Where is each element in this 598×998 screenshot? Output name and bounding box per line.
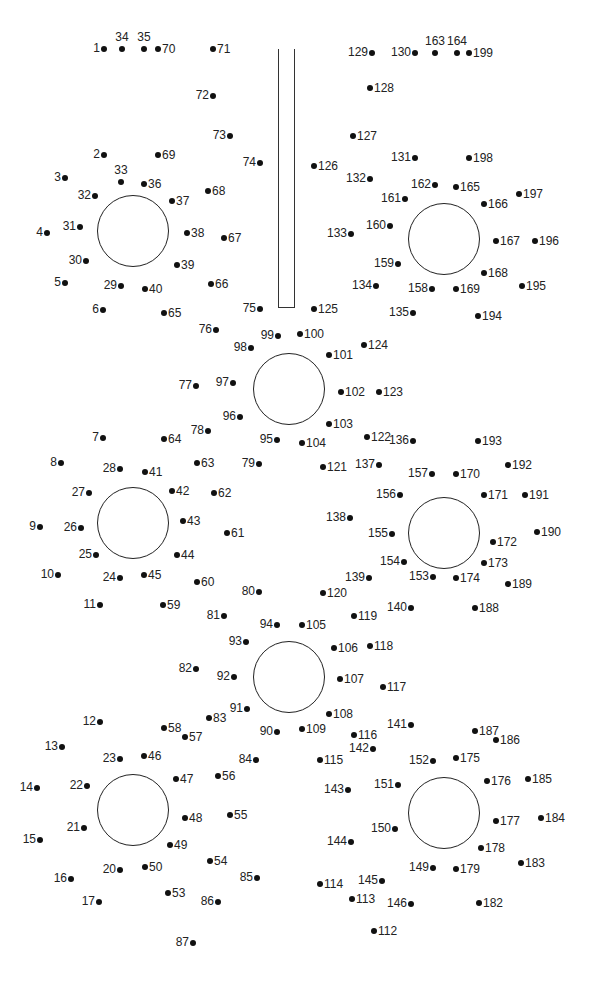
dot-155[interactable] (389, 531, 395, 537)
dot-174[interactable] (453, 575, 459, 581)
dot-137[interactable] (376, 462, 382, 468)
dot-53[interactable] (165, 890, 171, 896)
dot-2[interactable] (101, 152, 107, 158)
dot-177[interactable] (493, 818, 499, 824)
dot-171[interactable] (481, 492, 487, 498)
dot-69[interactable] (155, 152, 161, 158)
dot-43[interactable] (180, 518, 186, 524)
dot-187[interactable] (472, 728, 478, 734)
dot-131[interactable] (412, 155, 418, 161)
dot-127[interactable] (350, 133, 356, 139)
dot-35[interactable] (141, 46, 147, 52)
dot-97[interactable] (230, 380, 236, 386)
dot-49[interactable] (167, 842, 173, 848)
dot-193[interactable] (475, 438, 481, 444)
dot-39[interactable] (174, 262, 180, 268)
dot-191[interactable] (522, 492, 528, 498)
dot-100[interactable] (297, 331, 303, 337)
dot-1[interactable] (101, 46, 107, 52)
dot-189[interactable] (505, 581, 511, 587)
dot-151[interactable] (395, 782, 401, 788)
dot-23[interactable] (117, 756, 123, 762)
dot-93[interactable] (243, 639, 249, 645)
dot-79[interactable] (256, 461, 262, 467)
dot-98[interactable] (248, 345, 254, 351)
dot-135[interactable] (410, 310, 416, 316)
dot-105[interactable] (299, 622, 305, 628)
dot-40[interactable] (142, 286, 148, 292)
dot-46[interactable] (141, 753, 147, 759)
dot-58[interactable] (161, 725, 167, 731)
dot-116[interactable] (351, 732, 357, 738)
dot-156[interactable] (397, 492, 403, 498)
dot-36[interactable] (141, 181, 147, 187)
dot-33[interactable] (118, 179, 124, 185)
dot-185[interactable] (525, 776, 531, 782)
dot-142[interactable] (370, 746, 376, 752)
dot-29[interactable] (118, 283, 124, 289)
dot-17[interactable] (96, 899, 102, 905)
dot-25[interactable] (93, 552, 99, 558)
dot-10[interactable] (55, 572, 61, 578)
dot-91[interactable] (244, 706, 250, 712)
dot-64[interactable] (161, 436, 167, 442)
dot-145[interactable] (379, 878, 385, 884)
dot-76[interactable] (213, 327, 219, 333)
dot-115[interactable] (317, 757, 323, 763)
dot-14[interactable] (34, 785, 40, 791)
dot-85[interactable] (254, 875, 260, 881)
dot-162[interactable] (432, 182, 438, 188)
dot-136[interactable] (410, 438, 416, 444)
dot-139[interactable] (366, 575, 372, 581)
dot-70[interactable] (155, 46, 161, 52)
dot-160[interactable] (387, 223, 393, 229)
dot-86[interactable] (215, 899, 221, 905)
dot-158[interactable] (429, 286, 435, 292)
dot-73[interactable] (227, 133, 233, 139)
dot-195[interactable] (519, 283, 525, 289)
dot-119[interactable] (351, 613, 357, 619)
dot-101[interactable] (326, 352, 332, 358)
dot-62[interactable] (211, 490, 217, 496)
dot-71[interactable] (210, 46, 216, 52)
dot-104[interactable] (299, 440, 305, 446)
dot-108[interactable] (326, 711, 332, 717)
dot-152[interactable] (430, 758, 436, 764)
dot-159[interactable] (395, 261, 401, 267)
dot-47[interactable] (173, 776, 179, 782)
dot-164[interactable] (454, 50, 460, 56)
dot-128[interactable] (367, 85, 373, 91)
dot-96[interactable] (237, 414, 243, 420)
dot-8[interactable] (58, 460, 64, 466)
dot-122[interactable] (364, 434, 370, 440)
dot-20[interactable] (117, 867, 123, 873)
dot-198[interactable] (466, 155, 472, 161)
dot-112[interactable] (371, 928, 377, 934)
dot-133[interactable] (348, 231, 354, 237)
dot-107[interactable] (337, 676, 343, 682)
dot-118[interactable] (367, 643, 373, 649)
dot-124[interactable] (361, 342, 367, 348)
dot-150[interactable] (392, 826, 398, 832)
dot-72[interactable] (210, 93, 216, 99)
dot-92[interactable] (231, 674, 237, 680)
dot-140[interactable] (408, 605, 414, 611)
dot-149[interactable] (430, 865, 436, 871)
dot-99[interactable] (275, 333, 281, 339)
dot-126[interactable] (311, 163, 317, 169)
dot-77[interactable] (193, 383, 199, 389)
dot-117[interactable] (380, 684, 386, 690)
dot-11[interactable] (97, 602, 103, 608)
dot-81[interactable] (221, 613, 227, 619)
dot-113[interactable] (349, 896, 355, 902)
dot-75[interactable] (257, 306, 263, 312)
dot-7[interactable] (100, 435, 106, 441)
dot-21[interactable] (81, 825, 87, 831)
dot-194[interactable] (475, 313, 481, 319)
dot-59[interactable] (160, 602, 166, 608)
dot-12[interactable] (97, 719, 103, 725)
dot-157[interactable] (429, 471, 435, 477)
dot-5[interactable] (62, 280, 68, 286)
dot-161[interactable] (402, 196, 408, 202)
dot-15[interactable] (37, 837, 43, 843)
